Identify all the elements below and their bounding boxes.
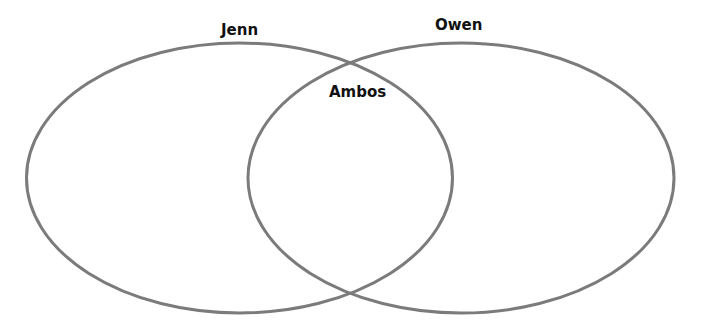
venn-diagram: Jenn Owen Ambos — [0, 0, 714, 335]
set-owen-ellipse — [248, 43, 674, 313]
set-owen-label: Owen — [435, 16, 482, 34]
set-jenn-ellipse — [27, 43, 453, 313]
venn-diagram-canvas: Jenn Owen Ambos — [0, 0, 714, 335]
set-jenn-label: Jenn — [220, 21, 258, 39]
intersection-label: Ambos — [329, 83, 386, 101]
